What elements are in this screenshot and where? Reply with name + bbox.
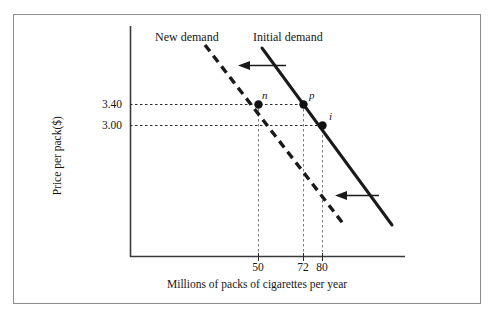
figure-root: Price per pack($) Millions of packs of c…	[0, 0, 499, 318]
initial-demand-curve	[262, 48, 392, 225]
initial-demand-label: Initial demand	[253, 31, 323, 43]
new-demand-label: New demand	[155, 31, 219, 43]
data-point-n	[254, 100, 262, 108]
x-axis-title: Millions of packs of cigarettes per year	[167, 279, 347, 291]
data-point-i	[318, 121, 326, 129]
x-tick-label-80: 80	[310, 262, 334, 274]
point-label-i: i	[329, 111, 332, 122]
y-axis-title: Price per pack($)	[52, 91, 64, 221]
y-tick-label-340: 3.40	[88, 99, 122, 111]
new-demand-curve	[205, 45, 345, 226]
data-point-p	[299, 100, 307, 108]
point-label-n: n	[262, 90, 268, 101]
x-tick-label-50: 50	[246, 262, 270, 274]
y-tick-label-300: 3.00	[88, 120, 122, 132]
point-label-p: p	[309, 90, 315, 101]
